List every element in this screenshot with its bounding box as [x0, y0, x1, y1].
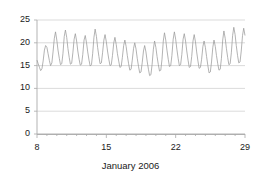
x-tick-label: 22: [163, 143, 189, 152]
x-tick-label: 29: [232, 143, 258, 152]
x-tick-label: 15: [93, 143, 119, 152]
x-tick-label: 8: [24, 143, 50, 152]
chart-container: 0510152025 8152229 January 2006: [0, 0, 261, 185]
axis-lines: [37, 20, 245, 135]
data-series: [37, 27, 245, 75]
y-tick-label: 20: [4, 38, 30, 47]
y-tick-label: 0: [4, 129, 30, 138]
gridlines: [37, 20, 245, 134]
axis-ticks: [34, 20, 245, 138]
y-tick-label: 15: [4, 61, 30, 70]
y-tick-label: 10: [4, 83, 30, 92]
y-tick-label: 25: [4, 15, 30, 24]
line-chart-plot: [0, 0, 261, 185]
y-tick-label: 5: [4, 106, 30, 115]
series-line: [37, 27, 245, 75]
x-axis-title: January 2006: [0, 160, 261, 171]
